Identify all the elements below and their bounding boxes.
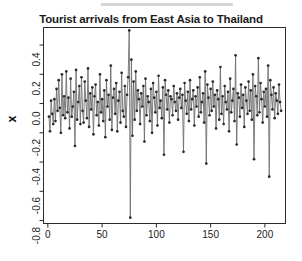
series-point bbox=[262, 91, 265, 94]
series-point bbox=[172, 85, 175, 88]
y-tick-label-holder: 0.2 bbox=[4, 68, 36, 80]
series-point bbox=[243, 126, 246, 129]
series-point bbox=[194, 95, 197, 98]
series-point bbox=[252, 73, 255, 76]
series-point bbox=[104, 136, 107, 139]
series-point bbox=[268, 175, 271, 178]
series-point bbox=[141, 105, 144, 108]
series-point bbox=[244, 86, 247, 89]
series-point bbox=[164, 79, 167, 82]
series-point bbox=[228, 130, 231, 133]
series-point bbox=[125, 126, 128, 129]
series-point bbox=[204, 70, 207, 73]
series-point bbox=[52, 123, 55, 126]
series-point bbox=[251, 118, 254, 121]
series-line bbox=[49, 30, 281, 217]
series-point bbox=[224, 101, 227, 104]
series-point bbox=[101, 98, 104, 101]
series-point bbox=[256, 114, 259, 117]
series-point bbox=[253, 158, 256, 161]
series-point bbox=[142, 85, 145, 88]
series-point bbox=[120, 71, 123, 74]
series-point bbox=[201, 101, 204, 104]
series-point bbox=[62, 114, 65, 117]
series-point bbox=[272, 86, 275, 89]
series-point bbox=[173, 101, 176, 104]
series-point bbox=[78, 85, 81, 88]
series-point bbox=[98, 124, 101, 127]
series-point bbox=[116, 130, 119, 133]
series-point bbox=[159, 99, 162, 102]
series-point bbox=[214, 93, 217, 96]
series-point bbox=[234, 54, 237, 57]
series-point bbox=[230, 111, 233, 114]
series-point bbox=[139, 123, 142, 126]
series-point bbox=[162, 86, 165, 89]
x-tick-label: 200 bbox=[250, 229, 280, 240]
series-point bbox=[205, 162, 208, 165]
series-point bbox=[270, 93, 273, 96]
series-point bbox=[124, 85, 127, 88]
series-point bbox=[51, 112, 54, 115]
series-point bbox=[99, 73, 102, 76]
series-point bbox=[48, 115, 51, 118]
series-point bbox=[219, 66, 222, 69]
series-point bbox=[213, 105, 216, 108]
series-point bbox=[73, 91, 76, 94]
series-point bbox=[177, 118, 180, 121]
series-point bbox=[144, 77, 147, 80]
series-point bbox=[126, 93, 129, 96]
series-point bbox=[163, 153, 166, 156]
series-point bbox=[109, 64, 112, 67]
series-point bbox=[80, 76, 83, 79]
series-point bbox=[261, 121, 264, 124]
series-point bbox=[196, 86, 199, 89]
series-point bbox=[96, 101, 99, 104]
series-point bbox=[87, 67, 90, 70]
series-point bbox=[152, 82, 155, 85]
series-point bbox=[50, 99, 53, 102]
series-point bbox=[209, 88, 212, 91]
series-point bbox=[264, 105, 267, 108]
series-point bbox=[138, 98, 141, 101]
series-point bbox=[95, 114, 98, 117]
series-point bbox=[69, 77, 72, 80]
series-point bbox=[171, 114, 174, 117]
series-point bbox=[273, 117, 276, 120]
series-point bbox=[165, 93, 168, 96]
series-point bbox=[271, 108, 274, 111]
series-point bbox=[114, 112, 117, 115]
series-point bbox=[197, 115, 200, 118]
series-point bbox=[153, 96, 156, 99]
series-point bbox=[233, 120, 236, 123]
series-point bbox=[112, 96, 115, 99]
series-point bbox=[146, 95, 149, 98]
series-point bbox=[131, 134, 134, 137]
series-point bbox=[178, 96, 181, 99]
series-point bbox=[202, 92, 205, 95]
series-point bbox=[211, 80, 214, 83]
chart-plot-area: x 0.40.20.0-0.2-0.4-0.6-0.8050100150200 bbox=[0, 0, 302, 261]
series-point bbox=[195, 105, 198, 108]
x-tick-label: 150 bbox=[196, 229, 226, 240]
series-point bbox=[223, 85, 226, 88]
series-point bbox=[74, 145, 77, 148]
x-tick-label: 0 bbox=[33, 229, 63, 240]
series-point bbox=[260, 98, 263, 101]
series-point bbox=[54, 120, 57, 123]
series-point bbox=[147, 101, 150, 104]
series-point bbox=[185, 112, 188, 115]
series-point bbox=[207, 96, 210, 99]
series-point bbox=[222, 123, 225, 126]
series-point bbox=[189, 79, 192, 82]
series-point bbox=[149, 120, 152, 123]
series-point bbox=[70, 115, 73, 118]
series-point bbox=[68, 127, 71, 130]
series-point bbox=[216, 89, 219, 92]
series-point bbox=[167, 89, 170, 92]
series-point bbox=[66, 111, 69, 114]
series-point bbox=[55, 88, 58, 91]
series-point bbox=[107, 93, 110, 96]
series-point bbox=[258, 111, 261, 114]
y-tick-label-holder: -0.6 bbox=[4, 185, 36, 197]
